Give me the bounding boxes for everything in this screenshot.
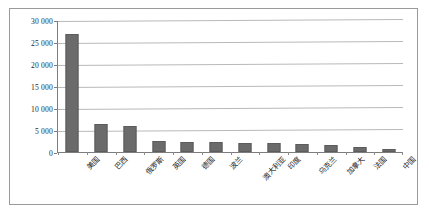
bar[interactable] (296, 144, 309, 152)
x-axis-category-label: 加拿大 (344, 154, 366, 177)
bar-slot (374, 21, 403, 152)
bar[interactable] (152, 141, 165, 152)
bar-slot (87, 21, 116, 152)
bar[interactable] (325, 145, 338, 152)
bar[interactable] (95, 124, 108, 152)
y-axis-tick-label: 10 000 (31, 105, 53, 114)
y-axis-tick-label: 25 000 (31, 39, 53, 48)
bar[interactable] (382, 149, 395, 152)
y-axis-tick-label: 0 (49, 149, 53, 158)
x-axis-category-label: 德国 (198, 154, 216, 172)
x-axis-category-label: 印度 (284, 154, 302, 172)
bar-slot (116, 21, 145, 152)
bar[interactable] (353, 147, 366, 152)
x-axis-category-label: 中国 (399, 154, 417, 172)
bar[interactable] (181, 142, 194, 152)
bar-slot (317, 21, 346, 152)
x-axis-category-label: 巴西 (112, 154, 130, 172)
bar-slot (58, 21, 87, 152)
bars-group (58, 21, 403, 152)
y-axis-tick-label: 30 000 (31, 17, 53, 26)
bar-slot (259, 21, 288, 152)
bar[interactable] (123, 126, 136, 152)
x-axis-category-labels: 美国巴西俄罗斯英国德国波兰澳大利亚印度乌克兰加拿大法国中国 (58, 154, 404, 204)
bar[interactable] (267, 143, 280, 152)
bar-slot (346, 21, 375, 152)
x-axis-category-label: 美国 (83, 154, 101, 172)
bar-slot (231, 21, 260, 152)
y-axis-tick-label: 5 000 (35, 127, 53, 136)
bar-slot (173, 21, 202, 152)
x-axis-category-label: 澳大利亚 (260, 154, 287, 182)
x-axis-category-label: 波兰 (227, 154, 245, 172)
x-axis-category-label: 法国 (371, 154, 389, 172)
bar[interactable] (238, 143, 251, 152)
x-axis-category-label: 俄罗斯 (143, 154, 165, 177)
bar-slot (144, 21, 173, 152)
x-axis-category-label: 乌克兰 (315, 154, 337, 177)
y-axis-tick-label: 20 000 (31, 61, 53, 70)
bar[interactable] (210, 142, 223, 152)
bar-slot (202, 21, 231, 152)
y-axis-tick-label: 15 000 (31, 83, 53, 92)
plot-area: 05 00010 00015 00020 00025 00030 000 (57, 21, 403, 153)
bar-slot (288, 21, 317, 152)
bar[interactable] (66, 34, 79, 152)
x-axis-category-label: 英国 (169, 154, 187, 172)
y-axis-tick-mark (54, 153, 57, 154)
chart-figure: 05 00010 00015 00020 00025 00030 000 美国巴… (9, 8, 418, 205)
